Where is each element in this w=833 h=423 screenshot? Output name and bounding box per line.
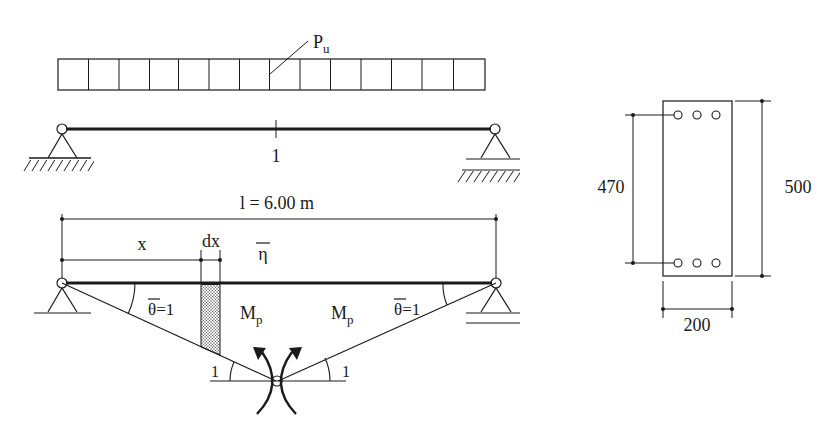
theta-left-label: θ=1 bbox=[148, 300, 174, 319]
angle-right-arc bbox=[325, 358, 330, 381]
section-width-label: 200 bbox=[684, 315, 711, 335]
top-beam-diagram: Pu 1 bbox=[24, 32, 522, 182]
deflected-right-segment bbox=[278, 283, 496, 381]
theta-right-arc bbox=[443, 283, 447, 305]
structural-diagram: Pu 1 bbox=[0, 0, 833, 423]
theta-right-label: θ=1 bbox=[394, 300, 420, 319]
dx-strip-hatch bbox=[201, 285, 220, 356]
right-roller-support-icon bbox=[458, 124, 522, 182]
span-dimension-label: l = 6.00 m bbox=[240, 193, 314, 213]
deflected-left-segment bbox=[62, 283, 276, 381]
dx-label: dx bbox=[202, 231, 220, 251]
section-outline bbox=[663, 101, 732, 276]
top-reinforcement-bars-icon bbox=[674, 111, 720, 119]
theta-left-arc bbox=[128, 283, 135, 314]
mp-right-label: Mp bbox=[331, 303, 354, 327]
collapse-mechanism-diagram: l = 6.00 m x dx η θ=1 θ=1 Mp M bbox=[34, 193, 520, 414]
left-pin-support-icon bbox=[24, 124, 96, 171]
section-height-label: 500 bbox=[785, 177, 812, 197]
angle-left-arc bbox=[230, 362, 234, 381]
midspan-label: 1 bbox=[272, 146, 281, 166]
mp-left-label: Mp bbox=[240, 303, 263, 327]
load-label: Pu bbox=[313, 32, 330, 56]
x-label: x bbox=[138, 234, 147, 254]
angle-left-label: 1 bbox=[211, 363, 219, 380]
bottom-reinforcement-bars-icon bbox=[674, 259, 720, 267]
load-leader-line bbox=[270, 41, 308, 74]
beam-cross-section: 470 500 200 bbox=[598, 99, 812, 335]
angle-right-label: 1 bbox=[342, 363, 350, 380]
distributed-load-strip bbox=[58, 59, 485, 90]
effective-depth-label: 470 bbox=[598, 177, 625, 197]
eta-label: η bbox=[258, 244, 267, 264]
